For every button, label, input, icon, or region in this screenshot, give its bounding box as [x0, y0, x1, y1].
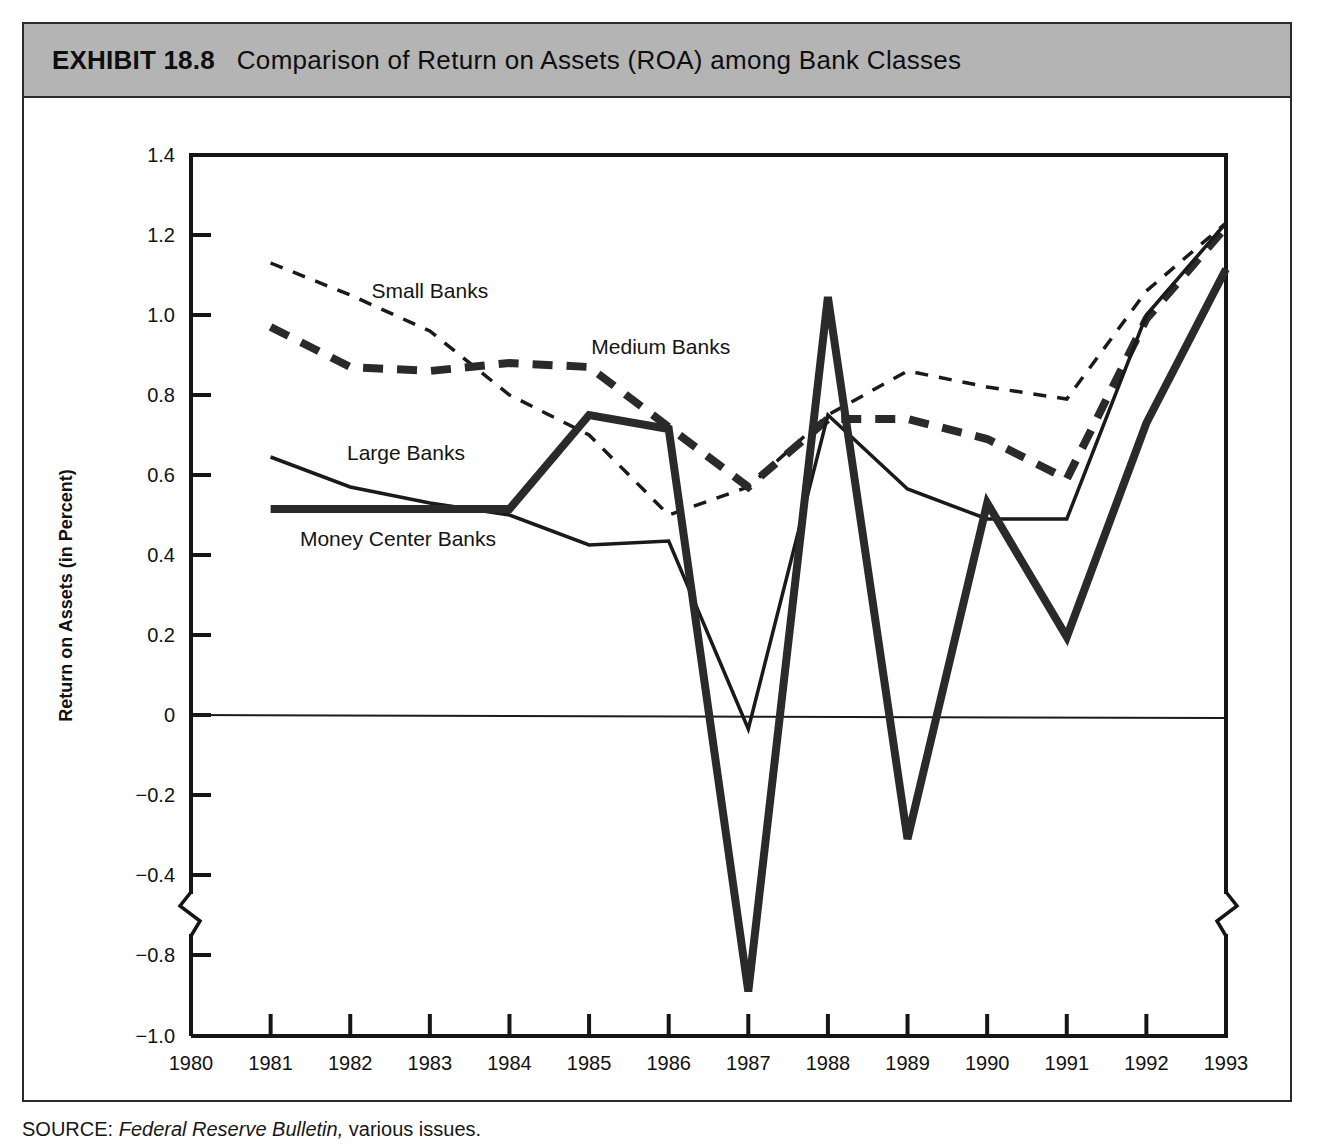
series-label-large-banks: Large Banks: [347, 441, 465, 464]
source-note: SOURCE: Federal Reserve Bulletin, variou…: [22, 1118, 481, 1141]
x-tick-label: 1980: [169, 1052, 214, 1074]
y-tick-label: −0.8: [136, 944, 175, 966]
y-tick-label: 0.2: [147, 624, 175, 646]
source-tail: various issues.: [343, 1118, 481, 1140]
exhibit-number: EXHIBIT 18.8: [52, 45, 215, 76]
y-tick-label: 1.2: [147, 224, 175, 246]
x-tick-label: 1993: [1204, 1052, 1249, 1074]
y-tick-label: −1.0: [136, 1025, 175, 1047]
x-tick-label: 1985: [567, 1052, 612, 1074]
series-label-money-center-banks: Money Center Banks: [300, 527, 496, 550]
x-axis-ticks: 1980198119821983198419851986198719881989…: [169, 1014, 1249, 1074]
source-publication: Federal Reserve Bulletin,: [113, 1118, 343, 1140]
chart-plot-area: 1.41.21.00.80.60.40.20−0.2−0.4−0.8−1.0 1…: [24, 98, 1290, 1102]
exhibit-container: EXHIBIT 18.8 Comparison of Return on Ass…: [22, 22, 1292, 1102]
exhibit-title-bar: EXHIBIT 18.8 Comparison of Return on Ass…: [24, 24, 1290, 98]
y-tick-label: 0.6: [147, 464, 175, 486]
axis-break-marks: [180, 892, 1237, 936]
y-tick-label: 1.4: [147, 144, 175, 166]
chart-axes: [191, 155, 1226, 1036]
series-label-small-banks: Small Banks: [371, 279, 488, 302]
y-axis-ticks: 1.41.21.00.80.60.40.20−0.2−0.4−0.8−1.0: [136, 144, 211, 1047]
chart-series-group: [271, 223, 1226, 992]
y-axis-title: Return on Assets (in Percent): [56, 469, 76, 721]
x-tick-label: 1984: [487, 1052, 532, 1074]
x-tick-label: 1989: [885, 1052, 930, 1074]
x-tick-label: 1987: [726, 1052, 771, 1074]
y-tick-label: −0.2: [136, 784, 175, 806]
y-tick-label: 0.8: [147, 384, 175, 406]
source-lead: SOURCE:: [22, 1118, 113, 1140]
y-tick-label: −0.4: [136, 864, 175, 886]
roa-line-chart: 1.41.21.00.80.60.40.20−0.2−0.4−0.8−1.0 1…: [24, 98, 1290, 1102]
x-tick-label: 1981: [248, 1052, 293, 1074]
y-tick-label: 0.4: [147, 544, 175, 566]
x-tick-label: 1992: [1124, 1052, 1169, 1074]
x-tick-label: 1990: [965, 1052, 1010, 1074]
exhibit-title: Comparison of Return on Assets (ROA) amo…: [237, 45, 962, 76]
x-tick-label: 1986: [646, 1052, 691, 1074]
x-tick-label: 1991: [1045, 1052, 1090, 1074]
x-tick-label: 1983: [408, 1052, 453, 1074]
y-tick-label: 0: [164, 704, 175, 726]
y-tick-label: 1.0: [147, 304, 175, 326]
x-tick-label: 1982: [328, 1052, 373, 1074]
x-tick-label: 1988: [806, 1052, 851, 1074]
series-label-medium-banks: Medium Banks: [591, 335, 730, 358]
